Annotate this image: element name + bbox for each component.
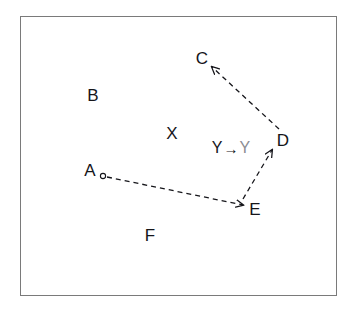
diagram-canvas: C B X D A E F Y → Y: [0, 0, 356, 318]
node-label-e: E: [249, 201, 260, 218]
node-label-x: X: [166, 125, 177, 142]
transition-from-label: Y: [212, 140, 223, 156]
node-label-c: C: [196, 50, 208, 67]
diagram-frame: [20, 16, 337, 296]
node-label-f: F: [145, 227, 155, 244]
node-label-a: A: [84, 162, 95, 179]
right-arrow-icon: →: [224, 141, 239, 156]
transition-to-label: Y: [240, 140, 251, 156]
node-label-d: D: [277, 132, 289, 149]
transition-annotation-y-to-y: Y → Y: [212, 140, 250, 156]
node-label-b: B: [87, 87, 98, 104]
